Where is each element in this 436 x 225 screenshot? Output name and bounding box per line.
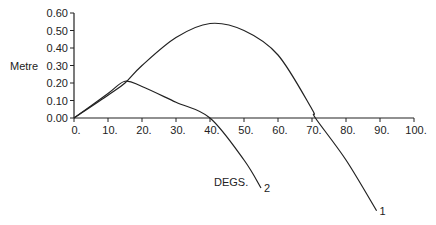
x-tick-label: 0. [71, 124, 80, 136]
x-tick-label: 30. [170, 124, 185, 136]
x-tick-label: 50. [238, 124, 253, 136]
y-tick-label: 0.50 [47, 25, 68, 37]
x-tick-label: 60. [272, 124, 287, 136]
series-label-2: 2 [264, 182, 270, 194]
x-tick-label: 90. [374, 124, 389, 136]
y-tick-label: 0.30 [47, 60, 68, 72]
x-tick-label: 10. [102, 124, 117, 136]
y-tick-label: 0.20 [47, 77, 68, 89]
x-tick-label: 100. [405, 124, 426, 136]
y-tick-label: 0.60 [47, 7, 68, 19]
y-axis-label: Metre [10, 60, 38, 72]
x-tick-label: 40. [204, 124, 219, 136]
labels: 0.000.100.200.300.400.500.600.10.20.30.4… [10, 7, 427, 217]
y-tick-label: 0.10 [47, 95, 68, 107]
chart: 0.000.100.200.300.400.500.600.10.20.30.4… [0, 0, 436, 225]
series-label-1: 1 [380, 205, 386, 217]
x-tick-label: 70. [306, 124, 321, 136]
y-tick-label: 0.00 [47, 112, 68, 124]
x-tick-label: 20. [136, 124, 151, 136]
x-tick-label: 80. [340, 124, 355, 136]
y-tick-label: 0.40 [47, 42, 68, 54]
x-axis-label: DEGS. [214, 176, 248, 188]
